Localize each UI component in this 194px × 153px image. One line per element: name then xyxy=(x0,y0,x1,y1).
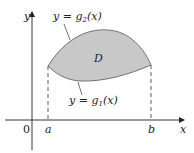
region-label: D xyxy=(93,52,103,65)
lower-curve-label: y = g1(x) xyxy=(68,94,118,108)
upper-curve-suffix: (x) xyxy=(87,10,102,23)
x-axis-label: x xyxy=(180,123,187,136)
a-label: a xyxy=(45,123,52,136)
lower-curve-suffix: (x) xyxy=(103,94,118,107)
origin-label: 0 xyxy=(23,123,30,136)
upper-curve-pointer xyxy=(64,24,70,40)
y-axis-label: y xyxy=(23,10,31,23)
b-label: b xyxy=(148,123,155,136)
upper-curve-label: y = g2(x) xyxy=(52,10,102,24)
upper-curve-prefix: y = g xyxy=(52,10,82,23)
region-diagram: y x 0 a b D y = g2(x) y = g1(x) xyxy=(0,0,194,153)
lower-curve-prefix: y = g xyxy=(68,94,98,107)
